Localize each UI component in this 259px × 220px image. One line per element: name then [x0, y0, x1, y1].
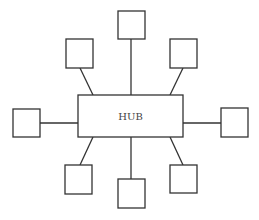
node-box-left [13, 109, 40, 137]
hub-label: HUB [118, 111, 143, 122]
link-lower-right [170, 137, 183, 165]
link-upper-right [170, 68, 183, 95]
node-box-bottom [118, 179, 145, 208]
node-box-upper-right [170, 39, 197, 68]
node-box-lower-right [170, 165, 197, 193]
link-upper-left [80, 68, 93, 95]
node-box-right [221, 108, 248, 137]
node-box-upper-left [66, 39, 93, 68]
node-box-lower-left [65, 165, 92, 194]
star-topology-diagram: HUB [0, 0, 259, 220]
link-lower-left [80, 137, 93, 165]
node-box-top [118, 11, 145, 39]
